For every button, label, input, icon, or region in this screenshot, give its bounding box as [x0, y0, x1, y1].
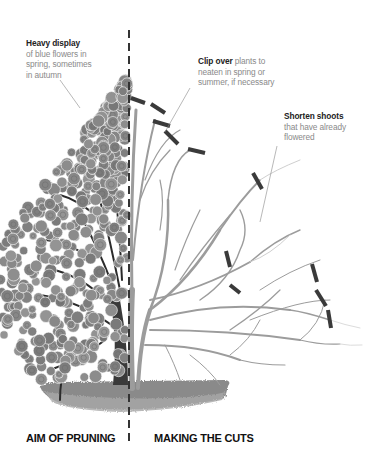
annotation-heavy-display-title: Heavy display — [26, 38, 80, 48]
annotation-clip-over: Clip over plants to neaten in spring or … — [198, 56, 274, 88]
flowering-shrub — [0, 74, 133, 400]
pruned-shrub-branches — [131, 110, 362, 388]
label-aim-of-pruning: AIM OF PRUNING — [26, 432, 115, 444]
annotation-line: summer, if necessary — [198, 77, 274, 87]
annotation-line: plants to — [233, 56, 266, 66]
annotation-shorten-shoots-title: Shorten shoots — [284, 111, 343, 121]
annotation-line: of blue flowers in — [26, 49, 86, 59]
annotation-line: flowered — [284, 132, 315, 142]
label-making-the-cuts: MAKING THE CUTS — [154, 432, 254, 444]
annotation-line: in autumn — [26, 70, 62, 80]
annotation-heavy-display: Heavy display of blue flowers in spring,… — [26, 38, 92, 80]
annotation-line: neaten in spring or — [198, 67, 265, 77]
annotation-clip-over-title: Clip over — [198, 56, 233, 66]
annotation-shorten-shoots: Shorten shoots that have already flowere… — [284, 111, 346, 143]
annotation-line: that have already — [284, 122, 346, 132]
annotation-line: spring, sometimes — [26, 59, 92, 69]
